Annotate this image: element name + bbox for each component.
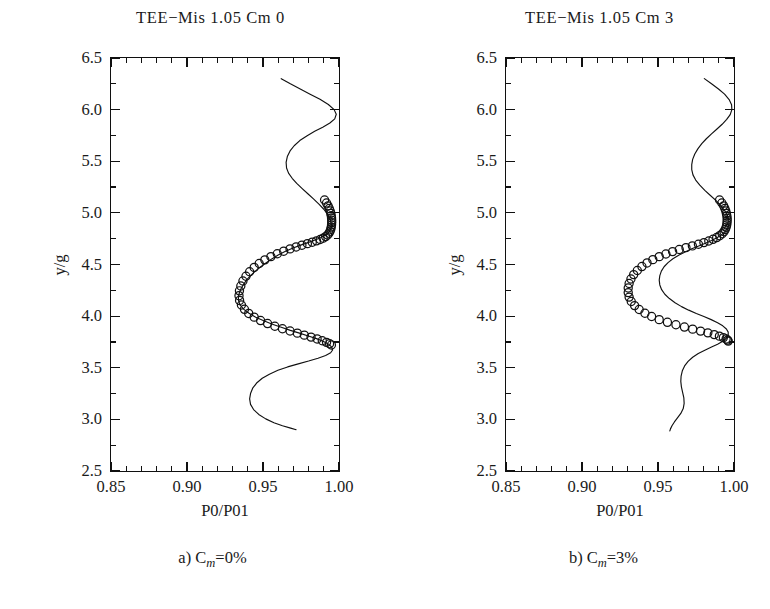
- x-tick-label: 1.00: [325, 477, 354, 497]
- caption-b-subscript: m: [598, 556, 607, 570]
- x-tick-label: 0.85: [492, 477, 521, 497]
- y-axis-title-b: y/g: [445, 254, 465, 275]
- caption-b-prefix: b) C: [569, 548, 598, 567]
- y-tick-label: 3.0: [81, 409, 102, 429]
- x-tick-label: 0.90: [568, 477, 597, 497]
- caption-a-suffix: =0%: [215, 548, 246, 567]
- caption-b-suffix: =3%: [607, 548, 638, 567]
- y-tick-label: 6.5: [81, 48, 102, 68]
- plot-area-a: y/g P0/P01 2.53.03.54.04.55.05.56.06.50.…: [110, 57, 340, 472]
- y-tick-label: 5.5: [81, 151, 102, 171]
- plot-svg-a: [111, 58, 339, 471]
- series-line-computation: [238, 79, 336, 430]
- y-tick-label: 5.0: [81, 203, 102, 223]
- plot-svg-b: [506, 58, 734, 471]
- plot-area-b: y/g P0/P01 2.53.03.54.04.55.05.56.06.50.…: [505, 57, 735, 472]
- chart-title-b: TEE−Mis 1.05 Cm 3: [385, 8, 770, 28]
- y-tick-label: 6.5: [476, 48, 497, 68]
- caption-a-subscript: m: [206, 556, 215, 570]
- series-markers-experiment: [235, 196, 336, 349]
- y-tick-label: 3.5: [476, 358, 497, 378]
- y-tick-label: 4.0: [81, 306, 102, 326]
- panel-a: TEE−Mis 1.05 Cm 0 y/g P0/P01 2.53.03.54.…: [0, 0, 385, 609]
- x-axis-title-b: P0/P01: [596, 501, 644, 521]
- y-tick-label: 6.0: [81, 100, 102, 120]
- y-tick-label: 6.0: [476, 100, 497, 120]
- figure-root: TEE−Mis 1.05 Cm 0 y/g P0/P01 2.53.03.54.…: [0, 0, 770, 609]
- series-markers-experiment: [624, 196, 732, 345]
- x-tick-label: 0.95: [644, 477, 673, 497]
- x-tick-label: 0.95: [249, 477, 278, 497]
- chart-title-a: TEE−Mis 1.05 Cm 0: [0, 8, 403, 28]
- panel-b: TEE−Mis 1.05 Cm 3 y/g P0/P01 2.53.03.54.…: [385, 0, 770, 609]
- caption-a: a) Cm=0%: [0, 548, 405, 571]
- x-tick-label: 0.90: [173, 477, 202, 497]
- y-tick-label: 5.5: [476, 151, 497, 171]
- caption-a-prefix: a) C: [178, 548, 206, 567]
- x-tick-label: 0.85: [97, 477, 126, 497]
- x-axis-title-a: P0/P01: [201, 501, 249, 521]
- y-tick-label: 4.0: [476, 306, 497, 326]
- y-axis-title-a: y/g: [50, 254, 70, 275]
- caption-b: b) Cm=3%: [385, 548, 770, 571]
- y-tick-label: 4.5: [476, 255, 497, 275]
- x-tick-label: 1.00: [720, 477, 749, 497]
- y-tick-label: 5.0: [476, 203, 497, 223]
- y-tick-label: 3.5: [81, 358, 102, 378]
- y-tick-label: 3.0: [476, 409, 497, 429]
- y-tick-label: 4.5: [81, 255, 102, 275]
